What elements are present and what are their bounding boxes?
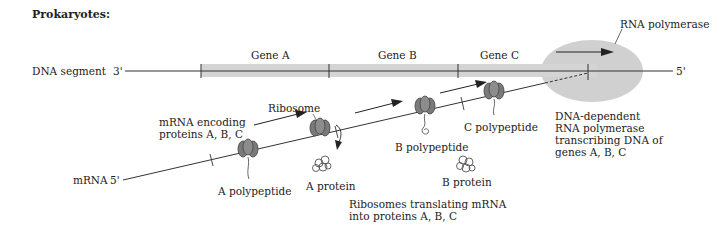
translation-arrow-3 — [440, 80, 487, 93]
mrna-tick-2 — [335, 126, 338, 138]
translation-caption: Ribosomes translating mRNA into proteins… — [349, 198, 506, 222]
a-protein-coil — [313, 156, 332, 172]
dna-3prime-end: 3' — [113, 65, 123, 77]
dna-5prime-end: 5' — [676, 65, 686, 77]
translation-arrow-2 — [355, 99, 403, 113]
b-protein-label: B protein — [442, 176, 492, 188]
dna-segment-label: DNA segment — [32, 65, 106, 77]
ribosome-labeled — [310, 118, 330, 136]
b-polypeptide-label: B polypeptide — [395, 141, 469, 153]
ribosome-label: Ribosome — [268, 102, 320, 114]
b-protein-coil — [457, 156, 476, 172]
gene-a-label: Gene A — [251, 49, 290, 61]
rna-polymerase-leader — [615, 29, 622, 44]
section-title: Prokaryotes: — [32, 9, 110, 21]
ribosome-a — [238, 139, 258, 179]
gene-c-label: Gene C — [480, 49, 519, 61]
rna-polymerase-label: RNA polymerase — [620, 18, 709, 30]
gene-b-label: Gene B — [378, 49, 417, 61]
a-polypeptide-label: A polypeptide — [218, 185, 291, 197]
prokaryote-transcription-translation-diagram: Prokaryotes: DNA segment 3' 5' Gene A Ge… — [0, 0, 727, 232]
ribosome-b — [415, 96, 435, 134]
c-polypeptide-label: C polypeptide — [464, 121, 538, 133]
mrna-encoding-caption: mRNA encoding proteins A, B, C — [159, 116, 246, 140]
a-protein-label: A protein — [306, 180, 356, 192]
mrna-label: mRNA — [73, 174, 108, 186]
polymerase-caption: DNA-dependent RNA polymerase transcribin… — [555, 110, 663, 158]
ribosome-c — [484, 81, 504, 115]
mrna-tick-3 — [461, 97, 464, 110]
mrna-5prime-end: 5' — [110, 174, 120, 186]
